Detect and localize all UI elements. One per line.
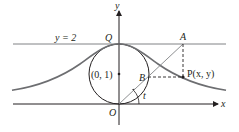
label-angle-t: t: [143, 90, 146, 101]
label-O: O: [109, 107, 116, 118]
label-P: P(x, y): [187, 68, 214, 80]
label-Q: Q: [105, 32, 113, 43]
label-B: B: [139, 72, 145, 83]
label-center: (0, 1): [91, 69, 113, 81]
point-P-dot: [181, 75, 184, 78]
label-A: A: [179, 31, 187, 42]
angle-arc: [134, 90, 139, 104]
label-y-axis: y: [114, 0, 120, 11]
label-y-equals-2: y = 2: [54, 32, 76, 43]
label-x-axis: x: [220, 98, 226, 109]
center-dot: [118, 73, 121, 76]
diagram-canvas: y x y = 2 Q A B O P(x, y) (0, 1) t: [0, 0, 239, 132]
